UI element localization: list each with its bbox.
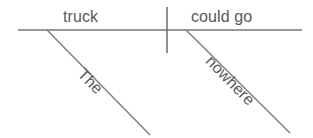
predicate-word: could go xyxy=(191,9,252,25)
diagram-canvas xyxy=(0,0,313,138)
sentence-diagram: truck could go The nowhere xyxy=(0,0,313,138)
subject-word: truck xyxy=(63,9,98,25)
